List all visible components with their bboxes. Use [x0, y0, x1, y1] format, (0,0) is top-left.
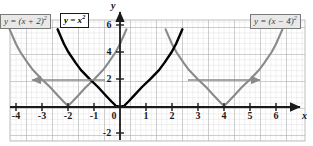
- x-tick-2: 2: [166, 110, 178, 121]
- x-tick-5: 5: [244, 110, 256, 121]
- origin-label: 0: [108, 110, 120, 121]
- x-tick-6: 6: [270, 110, 282, 121]
- x-tick-3: 3: [192, 110, 204, 121]
- y-tick-4: 4: [103, 46, 115, 57]
- y-tick-2: 2: [103, 73, 115, 84]
- x-tick--2: -2: [60, 110, 76, 121]
- x-tick-4: 4: [218, 110, 230, 121]
- label-x-plus-2-squared: y = (x + 2)2: [0, 14, 51, 29]
- label-x-squared: y = x2: [60, 13, 89, 28]
- x-tick--1: -1: [86, 110, 102, 121]
- x-tick--4: -4: [8, 110, 24, 121]
- x-tick-1: 1: [140, 110, 152, 121]
- x-axis-label: x: [302, 110, 307, 121]
- graph-figure: y = (x + 2)2 y = x2 y = (x − 4)2 x y -4 …: [0, 0, 313, 146]
- label-x-minus-4-squared: y = (x − 4)2: [250, 14, 301, 29]
- y-tick-6: 6: [103, 19, 115, 30]
- y-tick--2: -2: [98, 127, 116, 138]
- y-axis-label: y: [111, 0, 115, 11]
- x-tick--3: -3: [34, 110, 50, 121]
